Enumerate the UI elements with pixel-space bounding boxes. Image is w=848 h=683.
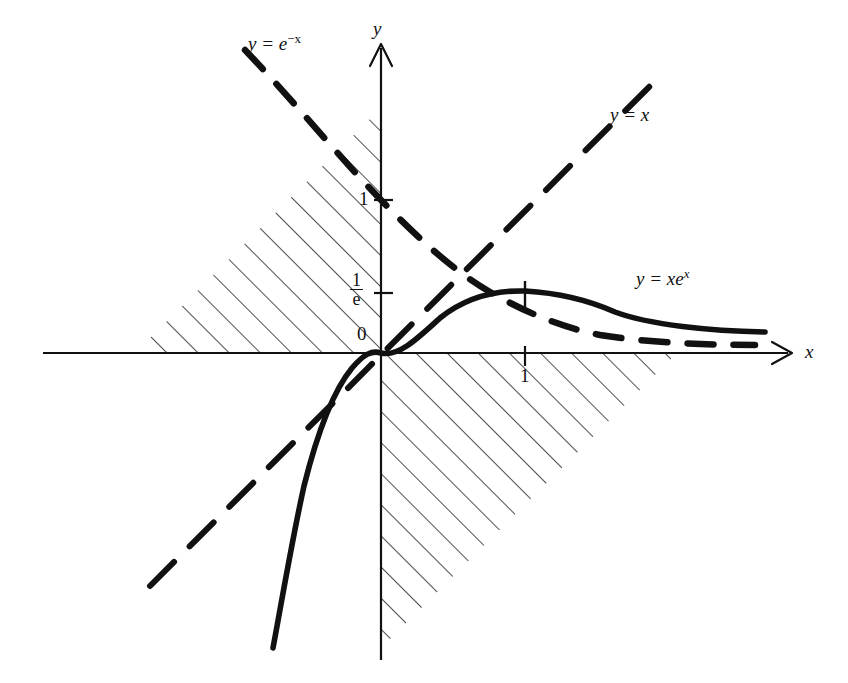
fraction-numerator: 1 — [350, 271, 363, 290]
axis-label-y: y — [373, 18, 381, 40]
tick-label-x-one: 1 — [520, 365, 530, 387]
axis-label-x: x — [805, 341, 813, 363]
fraction-denominator: e — [350, 290, 363, 308]
figure-canvas — [0, 0, 848, 683]
curve-label-x-times-exp: y = xex — [636, 268, 689, 290]
curve-label-x-times-exp-text: y = xe — [636, 268, 684, 289]
curve-label-x-times-exp-exponent: x — [684, 266, 690, 281]
tick-label-y-one-over-e: 1 e — [350, 271, 363, 309]
curve-label-exponential-decay: y = e−x — [248, 33, 301, 55]
region-quadrant-four — [381, 354, 676, 648]
origin-label: 0 — [357, 323, 367, 345]
curve-label-identity-line: y = x — [610, 104, 649, 126]
tick-label-y-one: 1 — [359, 188, 369, 210]
fraction-one-over-e: 1 e — [350, 271, 363, 309]
math-figure: y = e−x y = x y = xex y x 1 1 e 0 1 — [0, 0, 848, 683]
region-quadrant-two — [136, 108, 381, 352]
curve-label-exponential-decay-exponent: −x — [287, 31, 301, 46]
curve-label-exponential-decay-text: y = e — [248, 33, 287, 54]
